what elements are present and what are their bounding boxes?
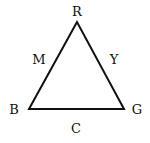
- edge-label-y: Y: [109, 52, 119, 67]
- vertex-label-g: G: [132, 102, 142, 117]
- edge-label-m: M: [32, 52, 45, 67]
- vertex-label-b: B: [9, 102, 19, 117]
- color-triangle-diagram: R B G M Y C: [0, 0, 150, 143]
- vertex-label-r: R: [72, 4, 83, 19]
- edge-label-c: C: [71, 121, 81, 136]
